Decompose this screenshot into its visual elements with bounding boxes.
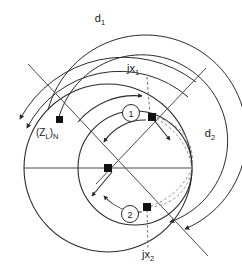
callout-1-label: 1 (128, 109, 133, 119)
radial-arrow-center (92, 172, 112, 196)
label-jx2: jx2 (141, 248, 154, 263)
label-d2-sub: 2 (211, 133, 215, 142)
callout-2-label: 2 (127, 210, 132, 220)
arc-d1-outer (20, 57, 196, 119)
marker-point-2[interactable] (143, 203, 151, 211)
label-d1: d1 (95, 12, 105, 27)
diagonal-axis-nw-se (28, 64, 208, 256)
callout-1[interactable]: 1 (123, 105, 140, 122)
arc-d2-inner (59, 55, 228, 222)
callout-2[interactable]: 2 (122, 206, 139, 223)
marker-origin[interactable] (104, 164, 112, 172)
point-markers (56, 113, 156, 211)
label-load-sub-outer: N (53, 132, 58, 141)
label-d1-sub: 1 (101, 18, 105, 27)
label-load-impedance: (ZL)N (36, 127, 58, 141)
marker-point-1[interactable] (148, 113, 156, 121)
label-jx2-sub: 2 (150, 254, 154, 263)
marker-load[interactable] (56, 116, 63, 123)
radial-direction-arrows (92, 120, 170, 196)
rotation-arrow-inner-upper (104, 120, 146, 142)
label-d2: d2 (205, 127, 215, 142)
smith-chart-svg: 1 2 d1 d2 jx1 jx2 (ZL)N (0, 0, 242, 266)
label-jx1-sub: 1 (135, 68, 139, 77)
label-load-base: (Z (36, 127, 45, 138)
diagonal-axis-ne-sw (96, 68, 206, 184)
reactance-leader-lines (147, 77, 150, 248)
smith-chart-figure: 1 2 d1 d2 jx1 jx2 (ZL)N (0, 0, 242, 266)
label-jx1: jx1 (126, 62, 139, 77)
radial-arrow-p1 (154, 120, 170, 140)
